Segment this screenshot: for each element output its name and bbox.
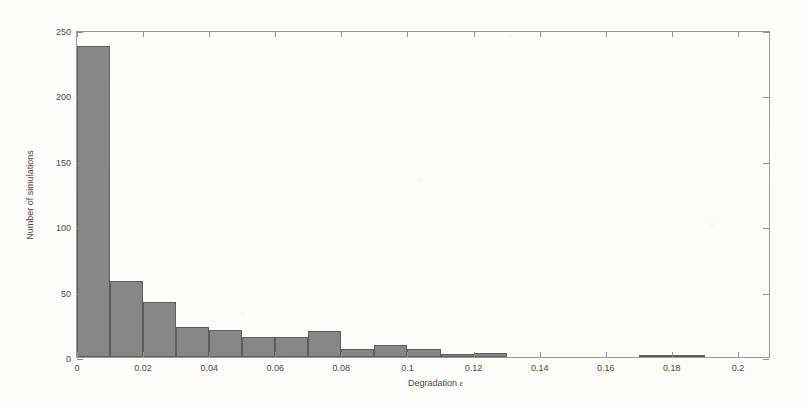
y-axis-tick [763,32,769,33]
y-axis-tick [77,359,83,360]
histogram-bar [110,281,143,357]
histogram-bar [639,355,672,357]
x-axis-title-text: Degradation [408,378,457,388]
histogram-bar [672,355,705,357]
x-axis-tick-label: 0.1 [401,363,414,373]
x-axis-tick [474,32,475,37]
x-axis-tick [341,352,342,357]
y-axis-tick [77,228,83,229]
x-axis-tick-label: 0.04 [200,363,218,373]
x-axis-tick [143,352,144,357]
x-axis-tick [275,352,276,357]
x-axis-tick [77,352,78,357]
y-axis-tick-label: 250 [56,27,71,37]
y-axis-tick [763,97,769,98]
x-axis-tick [738,32,739,37]
plot-area: 05010015020025000.020.040.060.080.10.120… [76,31,770,358]
histogram-bar [374,345,407,357]
x-axis-tick [540,352,541,357]
x-axis-tick [474,352,475,357]
y-axis-tick-label: 50 [61,289,71,299]
x-axis-tick [672,352,673,357]
y-axis-tick-label: 0 [66,354,71,364]
histogram-bar [143,302,176,357]
x-axis-tick-label: 0.08 [333,363,351,373]
x-axis-tick-label: 0.14 [531,363,549,373]
histogram-bar [407,349,440,357]
x-axis-tick-label: 0.06 [267,363,285,373]
histogram-bar [176,327,209,357]
y-axis-tick [77,163,83,164]
histogram-bar [308,331,341,357]
x-axis-tick [672,32,673,37]
y-axis-tick [763,359,769,360]
x-axis-tick [606,32,607,37]
histogram-bar [77,46,110,357]
x-axis-tick-label: 0.18 [663,363,681,373]
y-axis-tick [763,163,769,164]
y-axis-tick-label: 200 [56,92,71,102]
x-axis-tick-label: 0.12 [465,363,483,373]
y-axis-tick [763,228,769,229]
epsilon-symbol: ε [460,378,464,388]
x-axis-tick [77,32,78,37]
x-axis-tick [606,352,607,357]
x-axis-tick [540,32,541,37]
x-axis-title: Degradation ε [408,378,463,388]
x-axis-tick [341,32,342,37]
histogram-bar [275,337,308,357]
x-axis-tick-label: 0.2 [732,363,745,373]
y-axis-tick-label: 150 [56,158,71,168]
histogram-figure: Number of simulations Degradation ε 0501… [0,0,809,408]
y-axis-tick [77,97,83,98]
y-axis-tick-label: 100 [56,223,71,233]
y-axis-tick [77,294,83,295]
histogram-bar [209,330,242,357]
histogram-bar [474,353,507,357]
x-axis-tick-label: 0 [74,363,79,373]
y-axis-title: Number of simulations [25,150,35,240]
x-axis-tick [209,352,210,357]
x-axis-tick-label: 0.02 [134,363,152,373]
x-axis-tick [407,32,408,37]
histogram-bar [242,337,275,357]
histogram-bar [441,354,474,357]
x-axis-tick [209,32,210,37]
histogram-bar [341,349,374,357]
x-axis-tick [275,32,276,37]
x-axis-tick [738,352,739,357]
x-axis-tick [143,32,144,37]
x-axis-tick-label: 0.16 [597,363,615,373]
x-axis-tick [407,352,408,357]
y-axis-tick [763,294,769,295]
